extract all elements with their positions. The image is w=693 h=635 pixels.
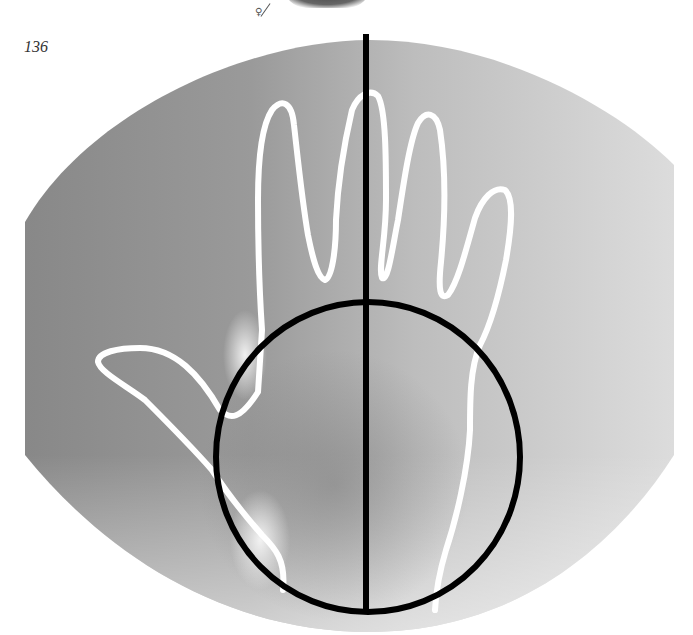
palm-figure <box>0 0 693 635</box>
